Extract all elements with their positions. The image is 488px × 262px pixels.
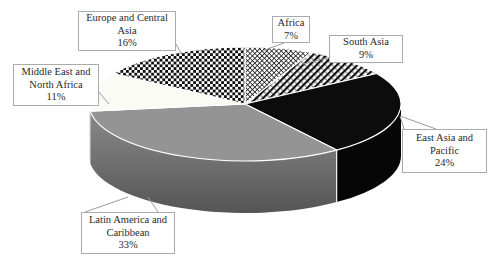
label-text: East Asia and Pacific [406, 132, 483, 158]
leader-line [400, 116, 436, 129]
label-text: South Asia [333, 36, 399, 49]
label-percent: 9% [333, 49, 399, 62]
label-percent: 7% [276, 30, 306, 43]
label-middle-east-north-africa: Middle East and North Africa 11% [13, 64, 99, 106]
label-south-asia: South Asia 9% [329, 35, 403, 63]
leader-line [85, 197, 128, 212]
label-latin-america-caribbean: Latin America and Caribbean 33% [81, 212, 175, 254]
label-text: Europe and Central Asia [82, 12, 172, 38]
label-text: Africa [276, 17, 306, 30]
label-text: Latin America and Caribbean [85, 214, 171, 240]
label-east-asia-pacific: East Asia and Pacific 24% [402, 129, 487, 173]
label-percent: 24% [406, 157, 483, 170]
label-europe-central-asia: Europe and Central Asia 16% [78, 11, 176, 51]
pie-chart-figure: Europe and Central Asia 16% Africa 7% So… [0, 0, 488, 262]
label-percent: 33% [85, 239, 171, 252]
label-text: Middle East and North Africa [17, 66, 95, 92]
label-africa: Africa 7% [272, 16, 310, 43]
pie-slice-side-middle-east-north-africa [89, 104, 90, 163]
label-percent: 16% [82, 37, 172, 50]
label-percent: 11% [17, 91, 95, 104]
